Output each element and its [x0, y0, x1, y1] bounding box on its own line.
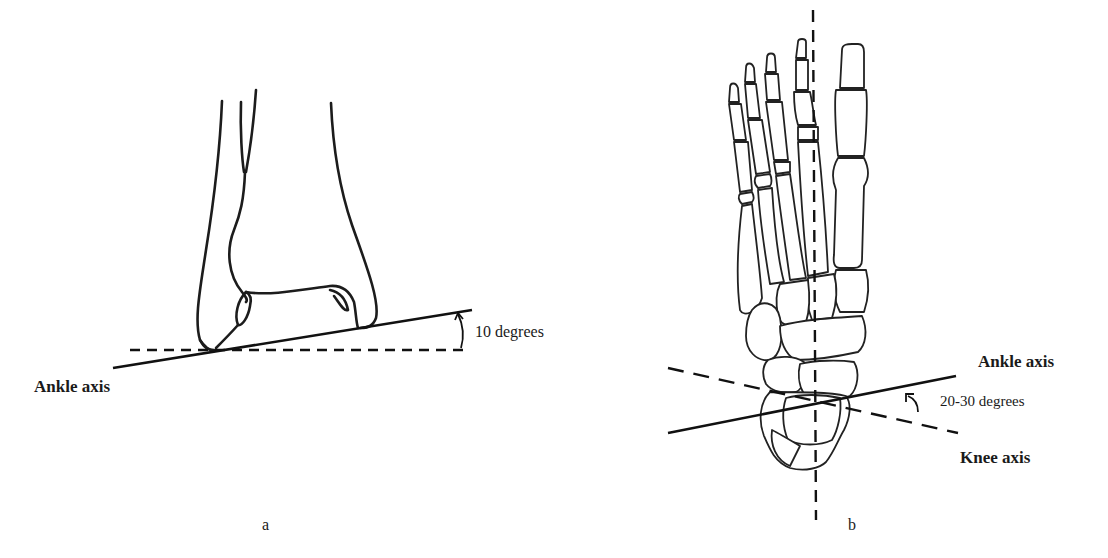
- knee-axis-label: Knee axis: [960, 448, 1030, 468]
- panel-label-b: b: [848, 516, 856, 534]
- ankle-axis-label-b: Ankle axis: [978, 352, 1054, 372]
- figure-a-ankle-drawing: [198, 90, 377, 351]
- diagram-canvas: 10 degrees Ankle axis a Ankle axis 20-30…: [0, 0, 1108, 558]
- ankle-axis-line-a: [113, 310, 472, 368]
- ankle-axis-label-a: Ankle axis: [34, 377, 110, 397]
- diagram-drawing: [0, 0, 1108, 558]
- angle-arc-b: [908, 396, 918, 412]
- figure-b-foot-skeleton: [729, 39, 868, 470]
- panel-label-a: a: [262, 516, 269, 534]
- angle-label-b: 20-30 degrees: [940, 393, 1025, 410]
- angle-label-a: 10 degrees: [475, 323, 544, 341]
